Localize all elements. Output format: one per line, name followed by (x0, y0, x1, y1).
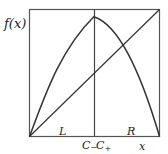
split-plus-label: C+ (96, 139, 111, 153)
map-diagram: f(x) L R C− C+ x (0, 0, 168, 154)
split-labels: C− C+ (82, 139, 111, 153)
x-axis-label: x (139, 140, 146, 153)
region-left-label: L (58, 125, 66, 138)
left-branch-curve (30, 16, 95, 137)
split-minus-label: C− (82, 139, 97, 152)
region-right-label: R (126, 125, 135, 138)
right-branch-curve (95, 17, 160, 137)
y-axis-label: f(x) (3, 16, 26, 31)
